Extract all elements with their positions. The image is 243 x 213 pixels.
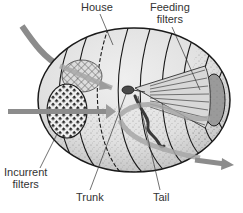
excurrent-flow-arrow <box>195 158 234 170</box>
label-incurrent-filters-line1: Incurrent <box>4 166 47 178</box>
label-feeding-filters-line2: filters <box>150 13 190 25</box>
label-feeding-filters: Feeding filters <box>150 1 190 25</box>
label-incurrent-filters-line2: filters <box>4 178 47 190</box>
label-feeding-filters-line1: Feeding <box>150 1 190 13</box>
label-house: House <box>81 1 113 13</box>
label-house-text: House <box>81 1 113 13</box>
label-tail-text: Tail <box>153 191 170 203</box>
label-tail: Tail <box>153 191 170 203</box>
trunk <box>122 86 134 94</box>
label-trunk-text: Trunk <box>76 191 104 203</box>
label-trunk: Trunk <box>76 191 104 203</box>
label-incurrent-filters: Incurrent filters <box>4 166 47 190</box>
